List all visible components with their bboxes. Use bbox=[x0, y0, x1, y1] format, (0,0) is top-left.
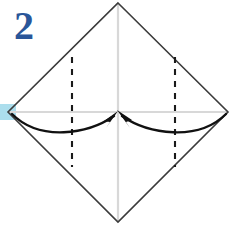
left-fold-arrowhead bbox=[104, 111, 118, 128]
step-number-label: 2 bbox=[14, 6, 34, 46]
origami-step-diagram: 2 bbox=[0, 0, 236, 230]
left-fold-arrow bbox=[12, 114, 114, 132]
diagram-canvas bbox=[0, 0, 236, 230]
